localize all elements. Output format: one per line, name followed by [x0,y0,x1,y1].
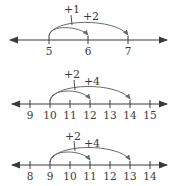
tick-label: 15 [143,109,156,121]
tick-label: 9 [27,109,34,121]
number-lines-diagram: 5 6 7 +1 +2 9 10 11 12 13 14 15 +2 +4 [0,0,175,186]
jump-label-large: +4 [84,137,100,150]
tick-label: 14 [143,170,157,182]
number-line-2: 9 10 11 12 13 14 15 +2 +4 [12,68,167,121]
tick-label: 11 [63,109,76,121]
tick-label: 14 [123,109,137,121]
tick-label: 9 [47,170,54,182]
jump-label-large: +4 [84,75,100,88]
tick-label: 8 [27,170,34,182]
number-line-3: 8 9 10 11 12 13 14 +2 +4 [12,130,167,182]
tick-label: 12 [103,170,116,182]
jump-arc-small [50,91,90,101]
jump-label-large: +2 [83,10,99,23]
tick-label: 13 [103,109,116,121]
number-line-1: 5 6 7 +1 +2 [10,3,167,57]
tick-label: 10 [63,170,76,182]
jump-arc-small [50,152,90,162]
tick-label: 13 [123,170,136,182]
tick-label: 10 [43,109,56,121]
tick-label: 7 [125,45,132,57]
label-leader [74,80,75,90]
tick-label: 6 [85,45,92,57]
jump-label-small: +2 [64,68,80,81]
jump-label-small: +1 [64,3,80,16]
tick-label: 11 [83,170,96,182]
tick-label: 12 [83,109,96,121]
tick-label: 5 [46,45,53,57]
jump-arc-large [49,22,128,36]
jump-label-small: +2 [65,130,81,143]
